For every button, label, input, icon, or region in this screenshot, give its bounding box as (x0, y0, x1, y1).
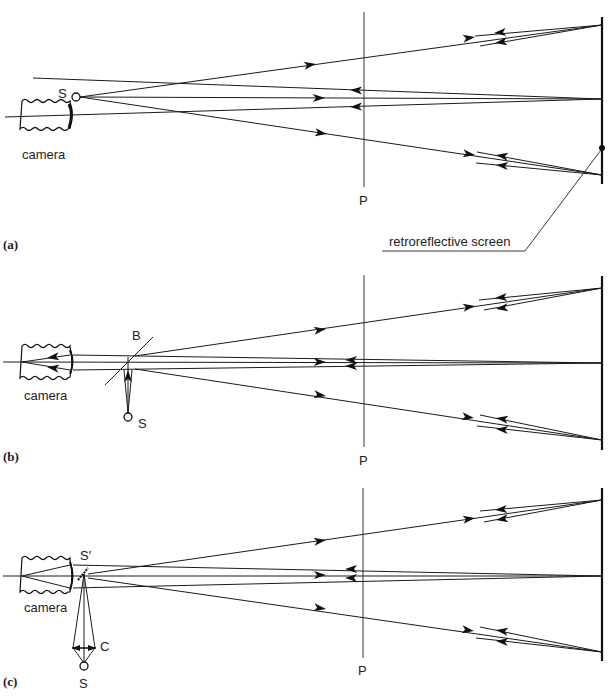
camera-label: camera (24, 600, 68, 615)
source-label: S (138, 416, 147, 431)
condenser-label: C (100, 639, 109, 654)
panel-b: camera B S (3, 275, 602, 468)
light-source-icon (124, 413, 132, 421)
beamsplitter-label: B (132, 328, 141, 343)
panel-label-b: (b) (3, 449, 19, 464)
camera-label: camera (24, 388, 68, 403)
light-source-icon (72, 93, 80, 101)
retroreflection-diagram: camera S P retrore (0, 0, 610, 696)
panel-label-a: (a) (3, 237, 18, 252)
screen-label: retroreflective screen (389, 234, 510, 249)
light-source-icon (80, 662, 88, 670)
panel-label-c: (c) (3, 674, 17, 689)
panel-a: camera S P retrore (3, 12, 605, 252)
camera-label: camera (22, 147, 66, 162)
source-label: S (79, 676, 88, 691)
source-label: S (58, 86, 67, 101)
plane-label: P (359, 453, 368, 468)
plane-label: P (359, 193, 368, 208)
plane-label: P (358, 663, 367, 678)
panel-c: camera S′ C S (3, 488, 602, 691)
image-source-label: S′ (80, 548, 92, 563)
